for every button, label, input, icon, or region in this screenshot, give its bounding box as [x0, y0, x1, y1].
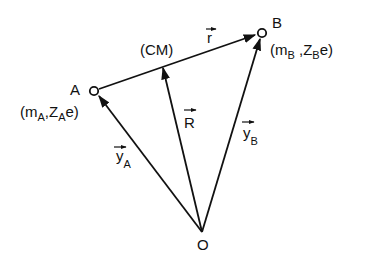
vector-r [99, 35, 255, 89]
label-vector-r: r [206, 29, 216, 46]
svg-text:yB: yB [243, 124, 258, 147]
label-center-of-mass: (CM) [140, 41, 173, 58]
label-vector-y-b: yB [242, 122, 258, 147]
two-body-vector-diagram: A B O (CM) (mA,ZAe) (mB ,ZBe) r R yA yB [0, 0, 371, 267]
particle-b-properties: (mB ,ZBe) [270, 41, 333, 61]
label-b: B [272, 14, 282, 31]
particle-a-properties: (mA,ZAe) [20, 103, 79, 123]
particle-b-point [258, 29, 266, 37]
label-vector-y-a: yA [114, 147, 132, 170]
svg-text:R: R [184, 114, 195, 131]
label-origin: O [197, 236, 209, 253]
label-a: A [70, 81, 80, 98]
svg-text:yA: yA [116, 147, 132, 170]
particle-a-point [90, 87, 98, 95]
svg-text:r: r [207, 29, 212, 46]
label-vector-R: R [184, 110, 196, 131]
